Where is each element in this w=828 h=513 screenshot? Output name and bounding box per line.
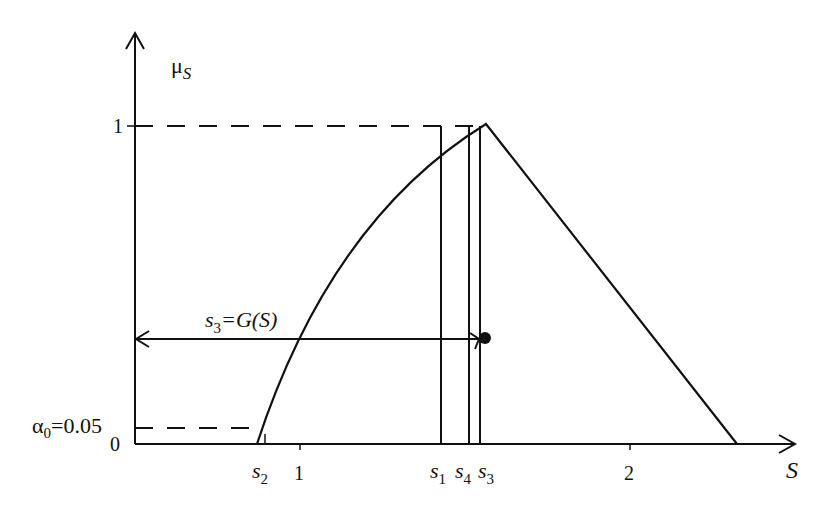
- membership-curve: [257, 124, 737, 444]
- g-of-s-arrowhead-right: [470, 333, 479, 349]
- alpha-label: α0=0.05: [32, 413, 102, 441]
- g-of-s-label: s3=G(S): [205, 307, 277, 336]
- s3-label: s3: [478, 458, 494, 487]
- y-tick-label-0: 0: [110, 433, 120, 455]
- y-axis-label: μS: [171, 53, 192, 83]
- s2-label: s2: [252, 458, 268, 487]
- x-axis-label: S: [786, 457, 798, 483]
- s4-label: s4: [455, 458, 472, 487]
- g-of-s-point: [479, 332, 491, 344]
- membership-diagram: μS 1 0 α0=0.05 1 2 s2 s1 s4 s3 S s3=G(S): [0, 0, 828, 513]
- x-tick-label-1: 1: [294, 462, 304, 484]
- s1-label: s1: [430, 458, 446, 487]
- x-tick-label-2: 2: [624, 462, 634, 484]
- y-tick-label-1: 1: [113, 115, 123, 137]
